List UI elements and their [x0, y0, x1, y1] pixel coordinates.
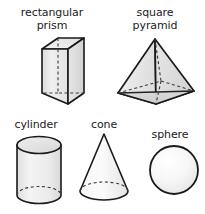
sphere-icon [148, 143, 202, 199]
label-cylinder: cylinder [2, 119, 70, 132]
label-cone: cone [74, 119, 134, 132]
label-square-pyramid: square pyramid [115, 7, 195, 32]
cylinder-top-ellipse [17, 137, 61, 154]
cone-icon [75, 131, 133, 207]
geometric-solids-figure: rectangular prism [0, 0, 205, 214]
sphere-circle [150, 146, 198, 194]
cylinder-icon [13, 134, 65, 206]
rectangular-prism-icon [38, 36, 88, 108]
prism-right-face [68, 38, 84, 104]
cone-body [80, 134, 128, 200]
pyramid-base-face [118, 91, 194, 104]
label-sphere: sphere [139, 129, 201, 142]
label-rectangular-prism: rectangular prism [12, 7, 92, 32]
square-pyramid-icon [113, 36, 199, 108]
prism-front-face [42, 49, 68, 104]
